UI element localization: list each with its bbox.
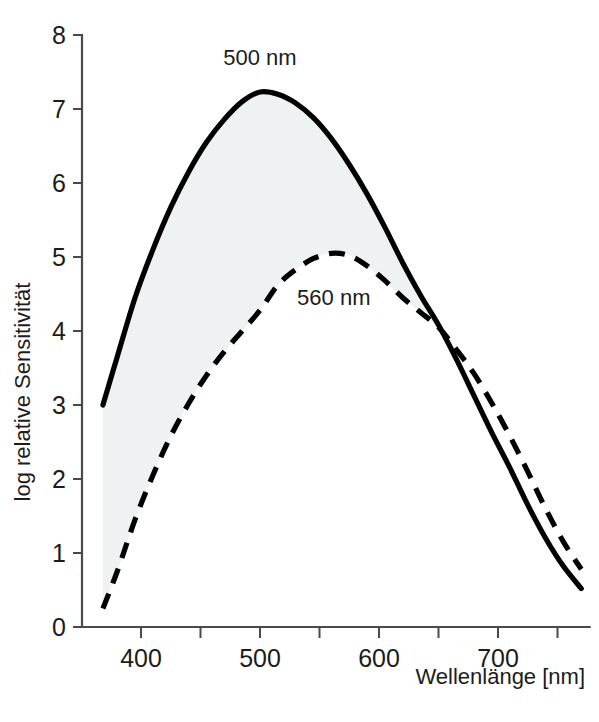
x-axis-title: Wellenlänge [nm]: [415, 664, 585, 689]
y-axis-ticks: [73, 35, 82, 627]
y-tick-label-3: 3: [52, 391, 66, 419]
x-tick-label-600: 600: [358, 644, 400, 672]
chart-canvas: 012345678 400500600700 500 nm 560 nm Wel…: [0, 0, 599, 722]
y-tick-label-7: 7: [52, 95, 66, 123]
x-tick-label-400: 400: [120, 644, 162, 672]
y-tick-label-2: 2: [52, 465, 66, 493]
shaded-band-between-curves: [103, 92, 456, 609]
x-tick-label-500: 500: [239, 644, 281, 672]
x-axis-ticks: [141, 627, 558, 638]
y-tick-label-0: 0: [52, 613, 66, 641]
y-tick-label-4: 4: [52, 317, 66, 345]
series-annotation-560nm: 560 nm: [297, 285, 370, 310]
series-annotation-500nm: 500 nm: [223, 45, 296, 70]
y-axis-tick-labels: 012345678: [52, 21, 66, 641]
y-tick-label-5: 5: [52, 243, 66, 271]
y-tick-label-1: 1: [52, 539, 66, 567]
y-tick-label-6: 6: [52, 169, 66, 197]
y-tick-label-8: 8: [52, 21, 66, 49]
y-axis-title: log relative Sensitivität: [10, 283, 35, 502]
chart-figure: 012345678 400500600700 500 nm 560 nm Wel…: [0, 0, 599, 722]
